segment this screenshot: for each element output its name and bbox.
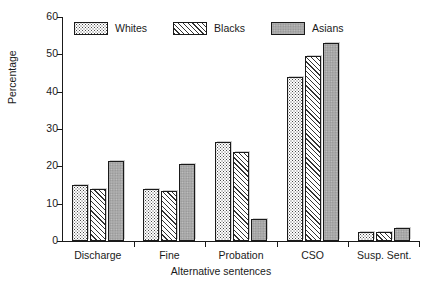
- bar-slot: [376, 17, 392, 241]
- bar-group-discharge: [72, 17, 124, 241]
- bar-whites-susp-sent: [358, 232, 374, 241]
- y-tick-label: 20: [46, 159, 58, 172]
- bar-whites-cso: [287, 77, 303, 241]
- y-tick-label: 30: [46, 122, 58, 135]
- y-tick-label: 0: [52, 234, 58, 247]
- x-tick-mark: [134, 242, 135, 247]
- bar-slot: [108, 17, 124, 241]
- x-axis-title: Alternative sentences: [0, 265, 442, 277]
- x-tick-label-probation: Probation: [219, 249, 264, 262]
- bar-asians-discharge: [108, 161, 124, 241]
- x-tick-label-cso: CSO: [301, 249, 324, 262]
- x-tick-mark-end: [419, 242, 420, 247]
- y-tick-label: 10: [46, 197, 58, 210]
- bar-slot: [90, 17, 106, 241]
- y-tick-label: 60: [46, 10, 58, 23]
- y-axis-line: [62, 17, 63, 242]
- x-tick-label-susp-sent: Susp. Sent.: [357, 249, 411, 262]
- bar-group-fine: [143, 17, 195, 241]
- bar-slot: [287, 17, 303, 241]
- bar-chart: Whites Blacks Asians Percentage 01020304…: [0, 0, 442, 294]
- bar-whites-fine: [143, 189, 159, 241]
- bar-whites-discharge: [72, 185, 88, 241]
- bar-group-susp-sent: [358, 17, 410, 241]
- bar-blacks-discharge: [90, 189, 106, 241]
- bar-slot: [72, 17, 88, 241]
- x-axis-line: [62, 241, 420, 242]
- y-tick-label: 50: [46, 47, 58, 60]
- x-tick-label-discharge: Discharge: [74, 249, 121, 262]
- bar-slot: [251, 17, 267, 241]
- bar-group-probation: [215, 17, 267, 241]
- bar-blacks-susp-sent: [376, 232, 392, 241]
- x-tick-label-fine: Fine: [159, 249, 179, 262]
- y-tick-label: 40: [46, 85, 58, 98]
- y-axis-title: Percentage: [6, 50, 18, 104]
- bar-slot: [394, 17, 410, 241]
- bar-asians-cso: [323, 43, 339, 241]
- x-tick-mark: [277, 242, 278, 247]
- bar-slot: [305, 17, 321, 241]
- bar-whites-probation: [215, 142, 231, 241]
- bar-blacks-probation: [233, 152, 249, 241]
- bar-asians-fine: [179, 164, 195, 241]
- plot-area: 0102030405060 DischargeFineProbationCSOS…: [62, 17, 420, 242]
- bar-slot: [323, 17, 339, 241]
- bar-group-cso: [287, 17, 339, 241]
- x-tick-mark: [205, 242, 206, 247]
- bar-asians-susp-sent: [394, 228, 410, 241]
- bar-slot: [233, 17, 249, 241]
- bar-slot: [358, 17, 374, 241]
- bar-slot: [161, 17, 177, 241]
- bar-slot: [143, 17, 159, 241]
- bar-blacks-fine: [161, 191, 177, 241]
- bar-blacks-cso: [305, 56, 321, 241]
- x-tick-mark: [348, 242, 349, 247]
- bar-slot: [179, 17, 195, 241]
- bar-slot: [215, 17, 231, 241]
- bar-asians-probation: [251, 219, 267, 241]
